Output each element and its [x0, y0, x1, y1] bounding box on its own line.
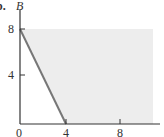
x-tick-label-0: 0 — [16, 126, 22, 137]
x-tick-label-4: 4 — [63, 126, 69, 137]
shaded-region — [20, 29, 153, 124]
panel-label: b. — [0, 0, 6, 13]
x-tick-label-8: 8 — [117, 126, 123, 137]
y-axis-title: B — [16, 0, 24, 13]
chart: b. B 8 4 0 4 8 — [0, 0, 164, 137]
y-tick-label-8: 8 — [8, 22, 14, 36]
y-tick-label-4: 4 — [8, 68, 14, 82]
